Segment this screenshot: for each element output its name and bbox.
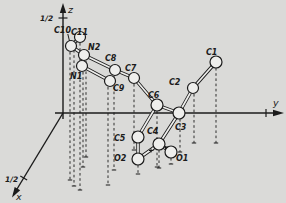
atom-O2	[132, 153, 144, 165]
atom-label-O2: O2	[114, 154, 127, 163]
atom-C10	[66, 41, 77, 52]
axes-group	[12, 3, 284, 198]
z-axis-arrow-icon	[60, 3, 66, 13]
x-axis-half-tick	[20, 176, 27, 180]
bonds-group	[71, 37, 216, 159]
atom-C6	[151, 99, 163, 111]
z-axis-half-label: 1/2	[40, 14, 53, 23]
atom-label-O1: O1	[176, 154, 188, 163]
atom-label-C8: C8	[105, 54, 117, 63]
atom-label-C10: C10	[54, 26, 71, 35]
atom-label-N2: N2	[88, 43, 101, 52]
x-axis-line	[14, 113, 63, 194]
y-axis-label: y	[272, 97, 279, 108]
atom-C7	[129, 73, 140, 84]
atom-label-N1: N1	[70, 72, 82, 81]
atom-label-C7: C7	[125, 64, 137, 73]
atom-C8	[110, 65, 121, 76]
z-axis-label: z	[67, 4, 74, 15]
x-axis-label: x	[15, 191, 22, 202]
atom-label-C2: C2	[169, 78, 181, 87]
atom-C2	[188, 83, 199, 94]
atom-label-C9: C9	[113, 84, 125, 93]
atom-C4	[153, 138, 165, 150]
figure-container: C1C2C3C4C5C6C7C8C9C10C11N1N2O1O2 z y x 1…	[0, 0, 286, 203]
atom-label-C5: C5	[114, 134, 126, 143]
x-axis-half-label: 1/2	[5, 175, 18, 184]
c10-label-connector	[68, 34, 70, 41]
atom-label-C6: C6	[148, 91, 160, 100]
atom-C1	[210, 56, 222, 68]
atom-N1	[77, 61, 88, 72]
drop-lines-group	[68, 43, 218, 190]
atom-C3	[173, 107, 185, 119]
atom-label-C3: C3	[175, 123, 187, 132]
atom-label-C4: C4	[147, 127, 159, 136]
atom-label-C11: C11	[71, 28, 88, 37]
molecular-structure-diagram: C1C2C3C4C5C6C7C8C9C10C11N1N2O1O2 z y x 1…	[0, 0, 286, 203]
atom-C5	[132, 131, 144, 143]
atom-label-C1: C1	[206, 48, 217, 57]
y-axis-arrow-icon	[273, 110, 284, 116]
